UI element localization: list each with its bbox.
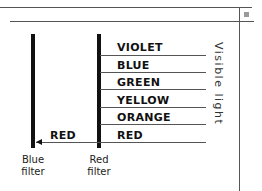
band-label-blue: BLUE [117,60,150,71]
header-divider-line [10,21,254,22]
right-border-line [239,7,240,191]
blue-filter-label-line2: filter [13,167,53,177]
red-filter-label-line2: filter [79,167,119,177]
visible-light-label: Visible light [212,42,225,125]
red-filter-bar [97,34,101,148]
band-line-orange [100,124,206,125]
band-label-violet: VIOLET [117,42,163,53]
top-border-line [0,7,252,8]
red-filter-label: Red filter [79,155,119,177]
red-filter-label-line1: Red [79,155,119,165]
transmitted-label-red: RED [50,130,76,141]
arrow-left-icon [36,139,42,145]
blue-filter-label: Blue filter [13,155,53,177]
blue-filter-bar [31,34,35,148]
band-line-yellow [100,107,206,108]
band-line-red [36,142,206,143]
band-line-blue [100,72,206,73]
band-label-yellow: YELLOW [117,95,169,106]
corner-square-icon [244,12,249,17]
blue-filter-label-line1: Blue [13,155,53,165]
band-label-green: GREEN [117,77,160,88]
band-label-orange: ORANGE [117,112,171,123]
band-line-green [100,89,206,90]
band-label-red: RED [117,130,143,141]
band-line-violet [100,55,206,56]
